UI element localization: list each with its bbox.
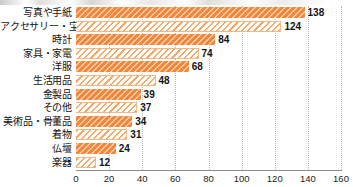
bar-value-label: 74 (199, 47, 213, 60)
bar-value-label: 84 (215, 33, 229, 46)
bar-row: 楽器12 (0, 156, 353, 169)
category-label: その他 (0, 101, 72, 114)
bar (76, 21, 281, 32)
category-label: 時計 (0, 33, 72, 46)
x-tick-label: 100 (234, 173, 250, 184)
x-tick-label: 20 (104, 173, 115, 184)
category-label: 洋服 (0, 60, 72, 73)
bar-fill (76, 34, 215, 45)
bar (76, 116, 132, 127)
category-label: 楽器 (0, 156, 72, 169)
category-label: 美術品・骨董品 (0, 115, 72, 128)
bar (76, 129, 127, 140)
x-tick-label: 140 (300, 173, 316, 184)
bar-fill (76, 75, 156, 86)
bar (76, 48, 199, 59)
bar (76, 102, 137, 113)
x-tick-label: 80 (203, 173, 214, 184)
bar (76, 89, 141, 100)
bar (76, 34, 215, 45)
x-axis-line (76, 170, 342, 171)
category-label: 家具・家電 (0, 47, 72, 60)
bar-row: 洋服68 (0, 60, 353, 73)
bar-fill (76, 102, 137, 113)
bar-row: 仏壇24 (0, 142, 353, 155)
x-tick-label: 120 (267, 173, 283, 184)
x-tick-label: 40 (137, 173, 148, 184)
bar-row: アクセサリー・宝石124 (0, 20, 353, 33)
bar-value-label: 12 (96, 156, 110, 169)
bar-row: 時計84 (0, 33, 353, 46)
bar-fill (76, 89, 141, 100)
bar-fill (76, 7, 305, 18)
bar-fill (76, 143, 116, 154)
scan-artifact (0, 0, 353, 5)
bar-value-label: 124 (281, 20, 301, 33)
bar (76, 157, 96, 168)
bar-fill (76, 129, 127, 140)
bar-row: 美術品・骨董品34 (0, 115, 353, 128)
bar-value-label: 31 (127, 128, 141, 141)
bar-value-label: 34 (132, 115, 146, 128)
category-label: 仏壇 (0, 142, 72, 155)
bar-fill (76, 48, 199, 59)
category-label: 着物 (0, 128, 72, 141)
bar (76, 143, 116, 154)
bar-fill (76, 157, 96, 168)
bar-row: 写真や手紙138 (0, 6, 353, 19)
horizontal-bar-chart: 写真や手紙138アクセサリー・宝石124時計84家具・家電74洋服68生活用品4… (0, 0, 353, 187)
bar-fill (76, 116, 132, 127)
bar-value-label: 48 (156, 74, 170, 87)
bar-row: その他37 (0, 101, 353, 114)
x-tick-label: 160 (333, 173, 349, 184)
bar-fill (76, 61, 189, 72)
category-label: 生活用品 (0, 74, 72, 87)
bar (76, 61, 189, 72)
category-label: 写真や手紙 (0, 6, 72, 19)
bar-row: 家具・家電74 (0, 47, 353, 60)
category-label: アクセサリー・宝石 (0, 20, 72, 33)
bar (76, 75, 156, 86)
bar-fill (76, 21, 281, 32)
x-tick-label: 60 (170, 173, 181, 184)
category-label: 金製品 (0, 88, 72, 101)
x-tick-label: 0 (73, 173, 78, 184)
bar-value-label: 24 (116, 142, 130, 155)
bar (76, 7, 305, 18)
bar-row: 生活用品48 (0, 74, 353, 87)
bar-row: 着物31 (0, 128, 353, 141)
bar-value-label: 68 (189, 60, 203, 73)
bar-value-label: 138 (305, 6, 325, 19)
bar-row: 金製品39 (0, 88, 353, 101)
bar-value-label: 39 (141, 88, 155, 101)
bar-value-label: 37 (137, 101, 151, 114)
